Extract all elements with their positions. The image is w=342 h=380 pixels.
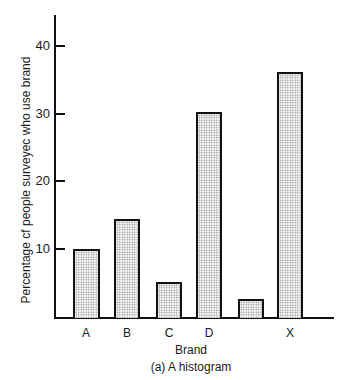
y-axis-title: Percentage cf people surveyec who use br… <box>19 20 33 340</box>
bar-a <box>73 249 100 318</box>
y-tick-10 <box>56 248 65 250</box>
x-label-c: C <box>156 326 182 340</box>
y-tick-20 <box>56 180 65 182</box>
x-axis-title: Brand <box>0 343 342 357</box>
x-label-b: B <box>114 326 140 340</box>
x-label-a: A <box>73 326 99 340</box>
bar-b <box>114 219 140 318</box>
x-label-x: X <box>277 326 303 340</box>
y-axis <box>54 15 56 319</box>
bar-x <box>277 72 303 318</box>
y-tick-40 <box>56 45 65 47</box>
bar-unlabeled <box>238 299 264 318</box>
y-tick-30 <box>56 113 65 115</box>
x-label-d: D <box>196 326 222 340</box>
bar-d <box>196 112 222 318</box>
figure-caption: (a) A histogram <box>0 360 342 374</box>
bar-c <box>156 282 182 318</box>
